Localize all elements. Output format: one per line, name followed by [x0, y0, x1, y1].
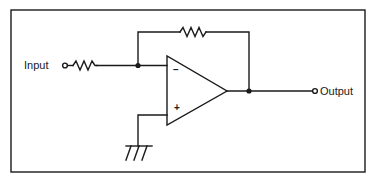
- output-label: Output: [320, 85, 353, 97]
- circuit-schematic: [0, 0, 375, 181]
- non-inverting-sign: +: [174, 103, 180, 113]
- junction-dot-output: [246, 88, 251, 93]
- ground-icon: [126, 146, 152, 160]
- input-label: Input: [24, 59, 48, 71]
- non-inverting-input-wire: [138, 115, 167, 146]
- inverting-sign: −: [173, 65, 179, 75]
- feedback-resistor-icon: [180, 28, 206, 37]
- junction-dot-inverting: [135, 63, 140, 68]
- input-terminal: [63, 63, 68, 68]
- input-resistor-icon: [73, 61, 97, 70]
- output-terminal: [313, 89, 318, 94]
